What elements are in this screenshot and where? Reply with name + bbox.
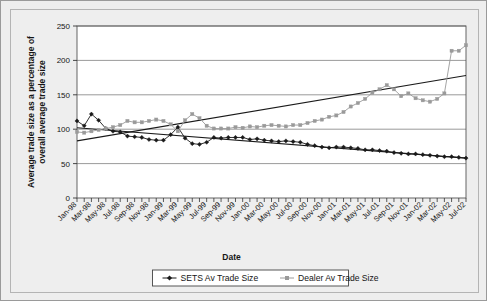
data-point [263, 124, 266, 127]
data-point [83, 131, 86, 134]
trade-size-line-chart: 050100150200250 Jan-98Mar-98May-98Jul-98… [11, 10, 478, 292]
data-point [97, 128, 100, 131]
data-point [464, 44, 467, 47]
legend-label: SETS Av Trade Size [181, 273, 259, 283]
data-point [284, 125, 287, 128]
data-point [457, 49, 460, 52]
data-point [356, 101, 359, 104]
data-point [407, 92, 410, 95]
data-point [392, 88, 395, 91]
data-point [306, 121, 309, 124]
y-tick-label: 50 [61, 160, 70, 169]
data-point [299, 123, 302, 126]
data-point [443, 92, 446, 95]
data-point [119, 123, 122, 126]
data-point [277, 124, 280, 127]
data-point [328, 115, 331, 118]
data-point [133, 121, 136, 124]
data-point [255, 126, 258, 129]
data-point [183, 119, 186, 122]
x-axis-tick-labels: Jan-98Mar-98May-98Jul-98Sep-98Nov-98Jan-… [56, 200, 468, 224]
y-tick-label: 200 [57, 56, 71, 65]
y-axis-tick-labels: 050100150200250 [57, 22, 71, 203]
data-point [414, 97, 417, 100]
data-point [378, 88, 381, 91]
data-point [248, 125, 251, 128]
data-point [436, 97, 439, 100]
data-point [219, 127, 222, 130]
chart-inner-panel: 050100150200250 Jan-98Mar-98May-98Jul-98… [10, 9, 479, 293]
legend-label: Dealer Av Trade Size [298, 273, 379, 283]
data-point [234, 126, 237, 129]
data-point [212, 127, 215, 130]
data-point [385, 84, 388, 87]
data-point [335, 114, 338, 117]
data-point [342, 110, 345, 113]
data-point [162, 119, 165, 122]
data-point [111, 126, 114, 129]
data-point [198, 117, 201, 120]
data-point [126, 119, 129, 122]
data-point [176, 130, 179, 133]
data-point [75, 130, 78, 133]
data-point [104, 127, 107, 130]
legend-marker-square [285, 276, 289, 280]
data-point [155, 118, 158, 121]
y-tick-label: 150 [57, 91, 71, 100]
data-point [205, 124, 208, 127]
y-axis-ticks [73, 26, 77, 198]
data-point [292, 123, 295, 126]
plot-background [77, 26, 466, 198]
data-point [450, 49, 453, 52]
data-point [428, 100, 431, 103]
data-point [140, 121, 143, 124]
data-point [191, 112, 194, 115]
data-point [400, 95, 403, 98]
data-point [421, 99, 424, 102]
y-axis-title: Average trade size as a percentage ofove… [26, 36, 47, 188]
y-tick-label: 100 [57, 125, 71, 134]
data-point [147, 119, 150, 122]
x-axis-title: Date [222, 252, 241, 262]
data-point [90, 130, 93, 133]
data-point [241, 126, 244, 129]
data-point [320, 118, 323, 121]
data-point [313, 119, 316, 122]
data-point [364, 97, 367, 100]
chart-legend: SETS Av Trade SizeDealer Av Trade Size [153, 270, 379, 286]
data-point [371, 91, 374, 94]
data-point [169, 123, 172, 126]
chart-figure-frame: 050100150200250 Jan-98Mar-98May-98Jul-98… [0, 0, 487, 301]
data-point [227, 127, 230, 130]
y-tick-label: 250 [57, 22, 71, 31]
data-point [349, 105, 352, 108]
data-point [270, 123, 273, 126]
